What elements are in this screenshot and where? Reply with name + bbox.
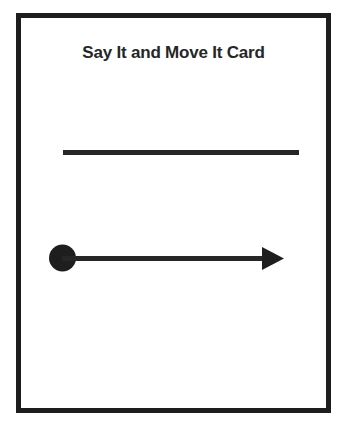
arrow-with-dot-icon: [0, 0, 347, 427]
arrowhead-icon: [262, 247, 284, 270]
arrow-shaft: [62, 256, 264, 261]
